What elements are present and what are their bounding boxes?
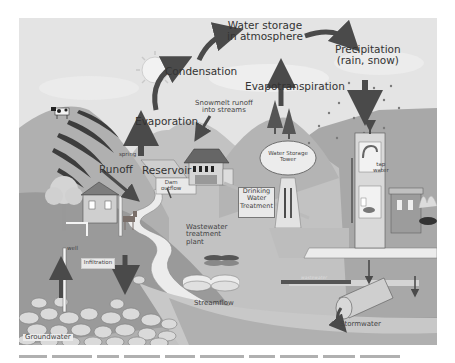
label-drinking-water-treatment: Drinking Water Treatment bbox=[238, 187, 275, 218]
label-line: into streams bbox=[195, 107, 253, 114]
label-line: water bbox=[373, 168, 389, 174]
label-line: outflow bbox=[161, 186, 181, 192]
caption-cutoff bbox=[19, 355, 437, 363]
label-water-storage-atmosphere: Water storage in atmosphere bbox=[227, 20, 303, 42]
label-dam-outflow: Dam outflow bbox=[161, 180, 181, 192]
label-groundwater: Groundwater bbox=[23, 334, 73, 341]
label-wastewater-pipe: wastewater bbox=[301, 276, 327, 281]
label-line: (rain, snow) bbox=[335, 55, 401, 66]
label-precipitation: Precipitation (rain, snow) bbox=[335, 44, 401, 66]
label-evaporation: Evaporation bbox=[135, 116, 198, 127]
label-line: Treatment bbox=[239, 203, 274, 210]
label-stormwater: Stormwater bbox=[340, 321, 381, 328]
label-line: Tower bbox=[267, 157, 309, 163]
label-well: well bbox=[67, 246, 78, 252]
label-snowmelt: Snowmelt runoff into streams bbox=[195, 100, 253, 115]
apartment-building-icon bbox=[352, 126, 385, 248]
water-cycle-diagram: Water storage in atmosphere Condensation… bbox=[19, 18, 437, 345]
label-runoff: Runoff bbox=[99, 164, 133, 175]
label-condensation: Condensation bbox=[165, 66, 237, 77]
label-tap-water: tap water bbox=[373, 162, 389, 174]
label-reservoir: Reservoir bbox=[142, 165, 191, 176]
label-wastewater-treatment-plant: Wastewater treatment plant bbox=[186, 224, 227, 246]
label-line: plant bbox=[186, 239, 227, 246]
label-infiltration: Infiltration bbox=[81, 258, 115, 269]
label-line: in atmosphere bbox=[227, 31, 303, 42]
label-streamflow: Streamflow bbox=[194, 300, 234, 307]
label-water-storage-tower: Water Storage Tower bbox=[267, 151, 309, 163]
shop-building-icon bbox=[389, 188, 423, 233]
label-spring: spring bbox=[119, 152, 136, 158]
label-evapotranspiration: Evapotranspiration bbox=[245, 81, 345, 92]
